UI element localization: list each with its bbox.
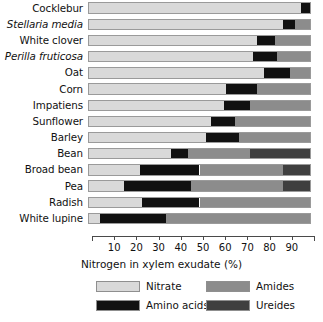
bar-segment-amino-acids bbox=[224, 101, 251, 110]
bar-segment-nitrate bbox=[89, 52, 253, 61]
axis-tick bbox=[181, 236, 182, 240]
stacked-bar bbox=[88, 35, 311, 46]
bar-segment-amino-acids bbox=[171, 149, 189, 158]
bar-segment-amino-acids bbox=[257, 36, 275, 45]
stacked-bar-chart: CockleburStellaria mediaWhite cloverPeri… bbox=[0, 0, 323, 322]
legend-item: Nitrate bbox=[96, 281, 206, 292]
stacked-bar bbox=[88, 197, 311, 208]
bar-segment-ureides bbox=[283, 181, 310, 190]
bar-segment-ureides bbox=[283, 165, 310, 174]
bar-segment-amides bbox=[250, 101, 310, 110]
bar-segment-nitrate bbox=[89, 149, 171, 158]
bar-segment-amides bbox=[188, 149, 250, 158]
bar-segment-nitrate bbox=[89, 20, 283, 29]
legend-label: Amides bbox=[256, 281, 294, 292]
bar-segment-amino-acids bbox=[301, 3, 310, 12]
category-label: Corn bbox=[0, 84, 88, 95]
stacked-bar bbox=[88, 164, 311, 175]
stacked-bar bbox=[88, 213, 311, 224]
chart-row: Oat bbox=[0, 65, 323, 81]
axis-tick bbox=[270, 236, 271, 240]
category-label: Bean bbox=[0, 148, 88, 159]
axis-tick-label: 60 bbox=[219, 242, 232, 253]
stacked-bar bbox=[88, 180, 311, 191]
category-label: Perilla fruticosa bbox=[0, 51, 88, 62]
bar-segment-amides bbox=[295, 20, 310, 29]
chart-row: White lupine bbox=[0, 210, 323, 226]
axis-tick bbox=[159, 236, 160, 240]
bar-segment-amides bbox=[235, 117, 310, 126]
stacked-bar bbox=[88, 148, 311, 159]
bar-segment-amino-acids bbox=[226, 84, 257, 93]
axis-tick bbox=[114, 236, 115, 240]
category-label: Sunflower bbox=[0, 116, 88, 127]
bar-segment-amino-acids bbox=[100, 214, 166, 223]
chart-row: Bean bbox=[0, 146, 323, 162]
axis-tick-label: 10 bbox=[108, 242, 121, 253]
category-label: Impatiens bbox=[0, 100, 88, 111]
bar-segment-amides bbox=[290, 68, 310, 77]
legend-label: Nitrate bbox=[146, 281, 182, 292]
legend-swatch bbox=[96, 300, 140, 311]
axis-tick-label: 40 bbox=[174, 242, 187, 253]
legend-label: Amino acids bbox=[146, 300, 209, 311]
category-label: White lupine bbox=[0, 213, 88, 224]
bar-segment-amides bbox=[200, 198, 311, 207]
bar-segment-nitrate bbox=[89, 101, 224, 110]
legend-item: Ureides bbox=[206, 300, 318, 311]
bar-segment-nitrate bbox=[89, 68, 264, 77]
category-label: Broad bean bbox=[0, 164, 88, 175]
bar-segment-amino-acids bbox=[211, 117, 235, 126]
bar-segment-ureides bbox=[250, 149, 310, 158]
bar-segment-nitrate bbox=[89, 3, 301, 12]
chart-row: Broad bean bbox=[0, 162, 323, 178]
category-label: White clover bbox=[0, 35, 88, 46]
x-axis-title: Nitrogen in xylem exudate (%) bbox=[0, 258, 323, 270]
bar-segment-amino-acids bbox=[206, 133, 239, 142]
axis-tick-label: 90 bbox=[285, 242, 298, 253]
bar-segment-amino-acids bbox=[140, 165, 200, 174]
bar-segment-nitrate bbox=[89, 198, 142, 207]
stacked-bar bbox=[88, 116, 311, 127]
stacked-bar bbox=[88, 2, 311, 13]
bar-segment-nitrate bbox=[89, 117, 211, 126]
bar-segment-nitrate bbox=[89, 84, 226, 93]
axis-tick bbox=[203, 236, 204, 240]
axis-tick-label: 30 bbox=[152, 242, 165, 253]
category-label: Radish bbox=[0, 197, 88, 208]
legend-swatch bbox=[206, 281, 250, 292]
axis-tick bbox=[136, 236, 137, 240]
plot-area: CockleburStellaria mediaWhite cloverPeri… bbox=[0, 0, 323, 234]
legend-swatch bbox=[96, 281, 140, 292]
stacked-bar bbox=[88, 132, 311, 143]
bar-segment-amides bbox=[200, 165, 284, 174]
axis-tick-label: 50 bbox=[197, 242, 210, 253]
chart-row: Perilla fruticosa bbox=[0, 49, 323, 65]
category-label: Stellaria media bbox=[0, 19, 88, 30]
bar-segment-amino-acids bbox=[142, 198, 199, 207]
bar-segment-nitrate bbox=[89, 165, 140, 174]
legend-item: Amino acids bbox=[96, 300, 206, 311]
axis-tick bbox=[225, 236, 226, 240]
bar-segment-amides bbox=[277, 52, 310, 61]
bar-segment-amides bbox=[257, 84, 310, 93]
category-label: Oat bbox=[0, 67, 88, 78]
bar-segment-amides bbox=[166, 214, 310, 223]
bar-segment-amino-acids bbox=[253, 52, 277, 61]
category-label: Barley bbox=[0, 132, 88, 143]
chart-row: Barley bbox=[0, 130, 323, 146]
stacked-bar bbox=[88, 67, 311, 78]
category-label: Pea bbox=[0, 181, 88, 192]
chart-row: Radish bbox=[0, 194, 323, 210]
category-label: Cocklebur bbox=[0, 3, 88, 14]
bar-segment-amino-acids bbox=[283, 20, 294, 29]
chart-row: Corn bbox=[0, 81, 323, 97]
chart-row: Cocklebur bbox=[0, 0, 323, 16]
stacked-bar bbox=[88, 51, 311, 62]
axis-tick-label: 70 bbox=[241, 242, 254, 253]
chart-legend: NitrateAmidesAmino acidsUreides bbox=[96, 277, 318, 315]
legend-item: Amides bbox=[206, 281, 318, 292]
bar-segment-nitrate bbox=[89, 133, 206, 142]
axis-tick bbox=[314, 236, 315, 241]
stacked-bar bbox=[88, 19, 311, 30]
